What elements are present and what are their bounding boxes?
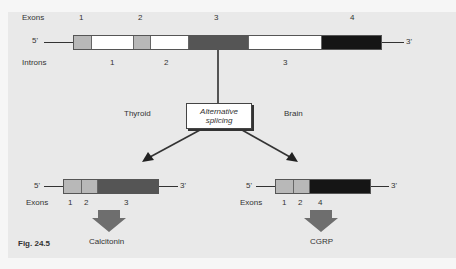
figure-label: Fig. 24.5 <box>18 239 50 248</box>
connector-arrows <box>0 0 456 269</box>
left-five-prime-label: 5' <box>34 182 40 190</box>
left-five-prime-line <box>44 186 63 187</box>
down-arrow-right <box>304 210 338 232</box>
calcitonin-mrna-bar <box>63 179 159 194</box>
arrow-left-head <box>142 152 154 162</box>
down-arrow-left <box>92 210 126 232</box>
left-three-prime-label: 3' <box>180 182 186 190</box>
right-exon-4 <box>309 180 370 193</box>
right-exons-label: Exons <box>240 199 262 207</box>
splice-line2: splicing <box>206 116 233 125</box>
right-five-prime-line <box>256 186 275 187</box>
cgrp-mrna-bar <box>275 179 371 194</box>
left-exon-number-1: 1 <box>68 199 72 207</box>
left-three-prime-line <box>159 186 178 187</box>
right-five-prime-label: 5' <box>246 182 252 190</box>
cgrp-label: CGRP <box>310 238 333 246</box>
alternative-splicing-box: Alternative splicing <box>186 103 252 129</box>
splice-line1: Alternative <box>200 107 238 116</box>
left-exons-label: Exons <box>26 199 48 207</box>
right-exon-number-2: 2 <box>298 199 302 207</box>
right-three-prime-label: 3' <box>391 182 397 190</box>
left-exon-1 <box>64 180 81 193</box>
arrow-right-head <box>286 152 298 162</box>
right-exon-1 <box>276 180 293 193</box>
right-three-prime-line <box>371 186 389 187</box>
calcitonin-label: Calcitonin <box>89 238 124 246</box>
left-exon-number-2: 2 <box>84 199 88 207</box>
brain-label: Brain <box>284 110 303 118</box>
thyroid-label: Thyroid <box>124 110 151 118</box>
left-exon-2 <box>81 180 97 193</box>
left-exon-3 <box>97 180 158 193</box>
left-exon-number-3: 3 <box>124 199 128 207</box>
right-exon-2 <box>293 180 309 193</box>
right-exon-number-4: 4 <box>318 199 322 207</box>
right-exon-number-1: 1 <box>282 199 286 207</box>
